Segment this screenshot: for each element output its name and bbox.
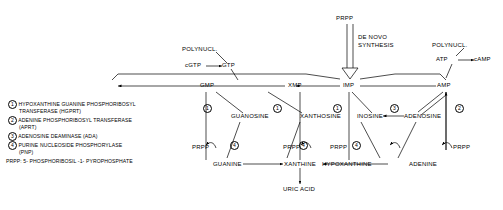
- guanosine-to-guanine: [227, 122, 240, 158]
- atp-label: ATP: [436, 56, 448, 62]
- base-hypoxanthine: HYPOXANTHINE: [322, 161, 372, 167]
- de-novo-arrow-head: [342, 68, 358, 79]
- gmp-to-guanosine: [216, 92, 243, 113]
- bus-left: [112, 74, 340, 80]
- camp-label: cAMP: [474, 56, 491, 62]
- prpp-top-label: PRPP: [336, 15, 353, 21]
- atp-to-amp-line: [446, 64, 452, 78]
- gtp-label: GTP: [222, 62, 235, 68]
- inosine-to-hypoxanthine: [361, 122, 380, 158]
- prpp-hook-4: [442, 143, 452, 148]
- polynucl-right-tick: [456, 48, 464, 56]
- nucleoside-guanosine: GUANOSINE: [231, 113, 269, 119]
- uric-acid-label: URIC ACID: [283, 186, 315, 192]
- enzyme-mark-hgprt-xmp: 1: [273, 104, 282, 113]
- nucleoside-adenosine: ADENOSINE: [404, 113, 441, 119]
- prpp-label-guanine: PRPP: [192, 144, 209, 150]
- prpp-label-adenine: PRPP: [453, 144, 470, 150]
- de-novo-label-line1: DE NOVO: [358, 34, 387, 40]
- enzyme-mark-pnp-guanosine: 4: [230, 141, 239, 150]
- enzyme-mark-aprt: 2: [455, 104, 464, 113]
- de-novo-arrow-shaft: [347, 24, 353, 70]
- enzyme-mark-pnp-xanthosine: 4: [299, 141, 308, 150]
- nucleotide-amp: AMP: [437, 82, 451, 88]
- prpp-label-hypoxanthine: PRPP: [330, 144, 347, 150]
- bus-right: [360, 74, 446, 80]
- enzyme-mark-pnp-inosine: 4: [352, 141, 361, 150]
- pathway-connectors: [0, 0, 503, 210]
- adenosine-to-adenine: [398, 122, 416, 158]
- polynucl-right-label: POLYNUCL.: [432, 42, 467, 48]
- nucleotide-gmp: GMP: [200, 82, 214, 88]
- nucleoside-xanthosine: XANTHOSINE: [300, 113, 341, 119]
- base-guanine: GUANINE: [213, 161, 242, 167]
- amp-adenosine-b: [421, 95, 446, 115]
- base-adenine: ADENINE: [409, 161, 437, 167]
- xanthosine-to-xanthine: [287, 122, 300, 158]
- nucleoside-inosine: INOSINE: [357, 113, 383, 119]
- enzyme-mark-ada: 3: [390, 104, 399, 113]
- polynucl-left-label: POLYNUCL.: [182, 46, 217, 52]
- base-xanthine: XANTHINE: [284, 161, 316, 167]
- gtp-to-gmp-line: [231, 69, 238, 80]
- imp-to-inosine: [352, 92, 372, 113]
- amp-adenosine-a: [418, 92, 443, 112]
- enzyme-mark-hgprt-gmp: 1: [203, 104, 212, 113]
- nucleotide-imp: IMP: [343, 82, 354, 88]
- de-novo-label-line2: SYNTHESIS: [358, 42, 394, 48]
- enzyme-mark-hgprt-imp: 1: [333, 104, 342, 113]
- prpp-label-xanthine: PRPP: [283, 144, 300, 150]
- cgtp-label: cGTP: [185, 62, 201, 68]
- nucleotide-xmp: XMP: [288, 82, 302, 88]
- prpp-hook-3: [390, 143, 400, 148]
- purine-metabolism-diagram: 1 HYPOXANTHINE GUANINE PHOSPHORIBOSYL TR…: [0, 0, 503, 210]
